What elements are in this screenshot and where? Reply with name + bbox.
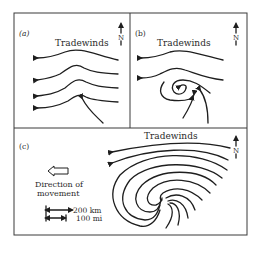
movement-label: Direction of — [35, 180, 84, 189]
panel-a-title: Tradewinds — [55, 38, 109, 48]
wind-streamlines — [37, 50, 118, 123]
north-arrow-icon: N — [233, 137, 239, 158]
movement-arrow-icon — [48, 166, 68, 176]
scale-bar: 200 km 100 mi — [46, 206, 103, 223]
panel-b-label: (b) — [135, 29, 146, 38]
panel-a: (a) Tradewinds N — [19, 24, 124, 123]
north-arrow-icon: N — [118, 24, 124, 45]
hurricane-spiral — [112, 143, 230, 228]
panel-b-title: Tradewinds — [157, 38, 211, 48]
movement-label-2: movement — [37, 189, 80, 198]
panel-c-label: (c) — [19, 142, 29, 151]
tropical-cyclone-formation-diagram: (a) Tradewinds N (b) Tradewinds N — [0, 0, 260, 261]
figure-frame — [14, 13, 247, 235]
panel-c-title: Tradewinds — [144, 131, 198, 141]
wind-streamlines — [141, 51, 223, 123]
panel-b: (b) Tradewinds N — [135, 24, 239, 123]
north-arrow-icon: N — [233, 24, 239, 45]
scale-mi-label: 100 mi — [76, 214, 103, 223]
panel-a-label: (a) — [19, 29, 29, 38]
panel-c: (c) Tradewinds N Direction of movement 2… — [19, 131, 239, 228]
